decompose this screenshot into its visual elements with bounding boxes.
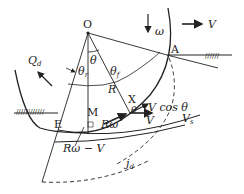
center-point-O (86, 31, 89, 34)
contact-arc (58, 115, 200, 134)
label-R-omega-minus-V: Rω − V (62, 142, 105, 155)
Qd-arrow (38, 72, 52, 86)
label-Qd: Qd (28, 54, 42, 68)
label-theta: θ (90, 54, 97, 67)
label-Vs: Vs (182, 112, 194, 126)
label-A: A (170, 43, 180, 56)
ground-hatch-right: ////// (205, 52, 220, 60)
right-angle-mark (88, 122, 93, 127)
line-O-E-ext (42, 33, 88, 182)
label-theta-f: θf (110, 65, 121, 79)
shear-arc (55, 125, 185, 142)
label-omega: ω (155, 25, 164, 38)
label-E: E (54, 118, 62, 131)
label-V-travel: V (208, 18, 217, 31)
label-O: O (83, 18, 92, 31)
label-theta-small: θ (131, 105, 137, 115)
label-R: R (107, 83, 116, 96)
wheel-soil-interaction-diagram: //////////// ////// O A E M X R ω V Qd θ… (0, 0, 244, 194)
label-M: M (87, 106, 98, 119)
label-theta-r: θr (78, 65, 89, 79)
ground-hatch-left: //////////// (16, 108, 45, 116)
line-O-X-R (88, 33, 130, 113)
label-R-omega: Rω (100, 118, 118, 131)
theta-r-arrow (66, 68, 75, 72)
label-V-vector: V (146, 114, 155, 127)
